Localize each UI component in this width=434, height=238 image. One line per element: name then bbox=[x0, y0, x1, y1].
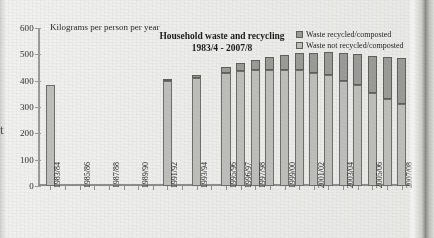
bar-segment-recycled bbox=[309, 53, 318, 73]
x-tick-1995/96 bbox=[226, 186, 227, 190]
x-tick-1999/00 bbox=[285, 186, 286, 190]
bar-segment-recycled bbox=[397, 58, 406, 104]
x-tick-1984/85 bbox=[65, 186, 66, 190]
x-tick-1988/89 bbox=[124, 186, 125, 190]
x-tick-1992/93 bbox=[182, 186, 183, 190]
y-tick-600 bbox=[35, 28, 41, 29]
bar-segment-recycled bbox=[251, 60, 260, 71]
bar-segment-recycled bbox=[295, 53, 304, 70]
bar-segment-recycled bbox=[368, 56, 377, 93]
x-axis-label-1991-92: 1991/92 bbox=[170, 162, 179, 188]
y-tick-label-300: 300 bbox=[0, 102, 34, 112]
bar-segment-recycled bbox=[192, 75, 201, 78]
x-tick-1998/99 bbox=[270, 186, 271, 190]
bar-segment-recycled bbox=[221, 67, 230, 74]
bar-segment-recycled bbox=[383, 57, 392, 99]
x-tick-1990/91 bbox=[153, 186, 154, 190]
y-tick-label-0: 0 bbox=[0, 181, 34, 191]
x-tick-1985/86 bbox=[80, 186, 81, 190]
x-axis-label-1996-97: 1996/97 bbox=[244, 162, 253, 188]
x-axis-label-1993-94: 1993/94 bbox=[200, 162, 209, 188]
x-axis-label-1987-88: 1987/88 bbox=[112, 162, 121, 188]
x-axis-label-2007-08: 2007/08 bbox=[405, 162, 414, 188]
x-axis-label-1995-96: 1995/96 bbox=[229, 162, 238, 188]
bar-segment-recycled bbox=[339, 53, 348, 81]
x-tick-1986/87 bbox=[94, 186, 95, 190]
x-tick-2000/01 bbox=[299, 186, 300, 190]
y-tick-100 bbox=[35, 160, 41, 161]
x-tick-2002/03 bbox=[328, 186, 329, 190]
bar-segment-recycled bbox=[324, 52, 333, 75]
x-axis-label-1985-86: 1985/86 bbox=[83, 162, 92, 188]
bar-segment-recycled bbox=[236, 63, 245, 71]
x-tick-1996/97 bbox=[241, 186, 242, 190]
chart-page: t Kilograms per person per year Househol… bbox=[0, 0, 434, 238]
x-axis-label-1989-90: 1989/90 bbox=[141, 162, 150, 188]
y-tick-label-200: 200 bbox=[0, 128, 34, 138]
bar-segment-recycled bbox=[163, 79, 172, 81]
y-tick-label-600: 600 bbox=[0, 23, 34, 33]
x-tick-1997/98 bbox=[255, 186, 256, 190]
bar-segment-recycled bbox=[280, 55, 289, 70]
x-axis-label-2003-04: 2003/04 bbox=[346, 162, 355, 188]
x-tick-2001/02 bbox=[314, 186, 315, 190]
x-tick-2004/05 bbox=[358, 186, 359, 190]
x-tick-2006/07 bbox=[387, 186, 388, 190]
bar-segment-recycled bbox=[265, 57, 274, 70]
y-tick-0 bbox=[35, 186, 41, 187]
x-tick-1987/88 bbox=[109, 186, 110, 190]
x-tick-1983/84 bbox=[50, 186, 51, 190]
x-tick-1993/94 bbox=[197, 186, 198, 190]
y-tick-label-400: 400 bbox=[0, 76, 34, 86]
y-tick-500 bbox=[35, 54, 41, 55]
y-tick-label-100: 100 bbox=[0, 155, 34, 165]
bar-segment-recycled bbox=[353, 54, 362, 86]
y-tick-400 bbox=[35, 81, 41, 82]
x-tick-1994/95 bbox=[211, 186, 212, 190]
x-tick-2003/04 bbox=[343, 186, 344, 190]
plot-area: 0100200300400500600 bbox=[38, 28, 412, 186]
x-tick-1991/92 bbox=[167, 186, 168, 190]
x-axis-label-1999-00: 1999/00 bbox=[288, 162, 297, 188]
y-tick-200 bbox=[35, 133, 41, 134]
y-tick-300 bbox=[35, 107, 41, 108]
x-tick-2007/08 bbox=[402, 186, 403, 190]
x-axis-label-2001-02: 2001/02 bbox=[317, 162, 326, 188]
x-axis-label-1983-84: 1983/84 bbox=[53, 162, 62, 188]
x-tick-1989/90 bbox=[138, 186, 139, 190]
x-axis-label-2005-06: 2005/06 bbox=[375, 162, 384, 188]
x-tick-2005/06 bbox=[372, 186, 373, 190]
x-axis-label-1997-98: 1997/98 bbox=[258, 162, 267, 188]
y-tick-label-500: 500 bbox=[0, 49, 34, 59]
page-left-edge bbox=[0, 0, 6, 238]
